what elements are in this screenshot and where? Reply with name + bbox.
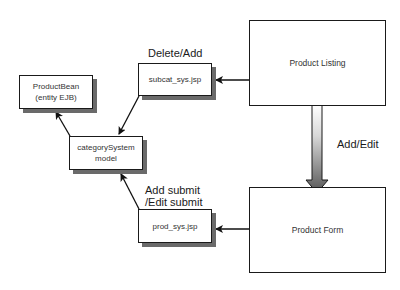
node-label: ProductBean (entity EJB) [33, 81, 79, 103]
node-label: Product Listing [289, 58, 345, 69]
node-label: subcat_sys.jsp [149, 74, 201, 85]
diagram-canvas: ProductBean (entity EJB) categorySystem … [0, 0, 400, 290]
edge-prodsys-to-model [121, 174, 139, 209]
node-category-system-model: categorySystem model [69, 136, 143, 170]
edge-label-add-submit-edit-submit: Add submit /Edit submit [145, 184, 202, 208]
edge-label-delete-add: Delete/Add [148, 47, 202, 59]
node-label: categorySystem model [77, 142, 134, 164]
edge-subcat-to-model [119, 96, 139, 134]
edge-label-add-edit: Add/Edit [337, 138, 379, 150]
node-label: prod_sys.jsp [153, 221, 198, 232]
edge-listing-to-form [306, 105, 328, 193]
node-product-listing: Product Listing [249, 20, 386, 106]
node-subcat-sys-jsp: subcat_sys.jsp [138, 63, 212, 96]
node-product-bean: ProductBean (entity EJB) [19, 75, 93, 109]
edge-model-to-productbean [56, 112, 70, 136]
node-label: Product Form [292, 225, 344, 236]
node-prod-sys-jsp: prod_sys.jsp [138, 209, 212, 243]
node-product-form: Product Form [249, 187, 386, 273]
